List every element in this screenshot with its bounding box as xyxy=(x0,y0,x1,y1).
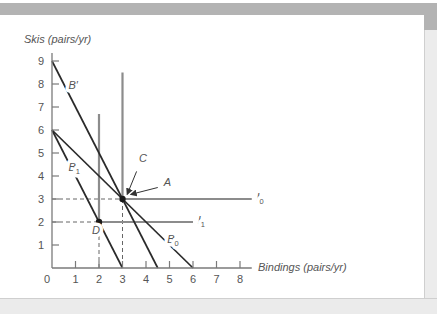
x-axis-label: Bindings (pairs/yr) xyxy=(258,261,347,273)
x-tick-label: 5 xyxy=(166,273,172,285)
y-tick-label: 7 xyxy=(38,101,44,113)
x-tick-label: 8 xyxy=(237,273,243,285)
indifference-curve-label: I1 xyxy=(198,214,205,229)
y-tick-label: 9 xyxy=(38,55,44,67)
x-tick-label: 6 xyxy=(190,273,196,285)
annotation-label-a: A xyxy=(163,176,171,188)
ski-bindings-chart: 012345678123456789 B′B0B1I0I1CAD Skis (p… xyxy=(0,0,447,314)
x-tick-label: 7 xyxy=(213,273,219,285)
data-points xyxy=(96,196,126,225)
x-tick-label: 2 xyxy=(96,273,102,285)
x-tick-label: 3 xyxy=(119,273,125,285)
indifference-curve-i0 xyxy=(123,73,252,200)
y-tick-label: 2 xyxy=(38,216,44,228)
y-tick-label: 1 xyxy=(38,239,44,251)
dashed-guides xyxy=(52,199,123,268)
y-tick-label: 8 xyxy=(38,78,44,90)
x-tick-label: 1 xyxy=(72,273,78,285)
annotation-label-c: C xyxy=(139,152,147,164)
annotation-label-d: D xyxy=(92,224,100,236)
y-tick-label: 6 xyxy=(38,124,44,136)
annotation-arrow xyxy=(131,188,158,195)
point-a-c xyxy=(119,196,125,202)
indifference-curve-label: I0 xyxy=(256,191,263,206)
x-tick-label: 4 xyxy=(143,273,149,285)
y-axis-label: Skis (pairs/yr) xyxy=(24,33,92,45)
indifference-curve-i1 xyxy=(99,114,193,222)
annotation-arrow xyxy=(127,171,136,194)
y-tick-label: 3 xyxy=(38,193,44,205)
y-tick-label: 4 xyxy=(38,170,44,182)
budget-line-label: B′ xyxy=(68,79,78,91)
y-tick-label: 5 xyxy=(38,147,44,159)
x-tick-label: 0 xyxy=(44,273,50,285)
